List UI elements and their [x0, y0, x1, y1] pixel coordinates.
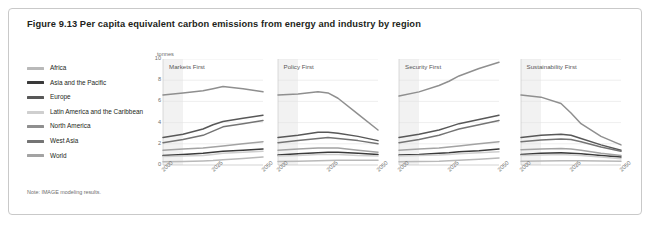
- legend-item-world[interactable]: World: [27, 149, 149, 164]
- legend-color-swatch-icon: [27, 111, 44, 114]
- legend-item-label: Latin America and the Caribbean: [50, 109, 143, 115]
- legend-item-label: North America: [50, 123, 91, 129]
- chart-panels: Markets First0246810200020252050Policy F…: [149, 59, 635, 184]
- legend-item-north-america[interactable]: North America: [27, 119, 149, 134]
- y-axis-tick-label: 0: [149, 162, 161, 168]
- panel-plot: [514, 59, 636, 167]
- legend-color-swatch-icon: [27, 67, 44, 70]
- legend-item-label: Africa: [50, 65, 66, 71]
- panel-plot: [392, 59, 514, 167]
- panel-plot: [271, 59, 393, 167]
- chart-panel-policy-first: Policy First200020252050: [271, 59, 393, 184]
- legend-item-latin-america-and-the-caribbean[interactable]: Latin America and the Caribbean: [27, 105, 149, 120]
- y-axis-tick-label: 8: [149, 77, 161, 83]
- panel-plot: [149, 59, 271, 167]
- y-axis-tick-label: 4: [149, 120, 161, 126]
- chart-panel-markets-first: Markets First0246810200020252050: [149, 59, 271, 184]
- legend-item-asia-and-the-pacific[interactable]: Asia and the Pacific: [27, 76, 149, 91]
- legend-item-west-asia[interactable]: West Asia: [27, 134, 149, 149]
- legend-item-label: Asia and the Pacific: [50, 80, 106, 86]
- page-title: Figure 9.13 Per capita equivalent carbon…: [27, 19, 421, 29]
- legend-item-label: World: [50, 153, 67, 159]
- figure-card: Figure 9.13 Per capita equivalent carbon…: [8, 8, 642, 215]
- chart-legend: AfricaAsia and the PacificEuropeLatin Am…: [27, 61, 149, 163]
- legend-color-swatch-icon: [27, 125, 44, 128]
- series-line-africa: [521, 161, 621, 162]
- y-axis-tick-label: 2: [149, 141, 161, 147]
- legend-item-africa[interactable]: Africa: [27, 61, 149, 76]
- legend-item-label: Europe: [50, 94, 71, 100]
- figure-note: Note: IMAGE modeling results.: [27, 189, 101, 195]
- legend-item-europe[interactable]: Europe: [27, 90, 149, 105]
- legend-item-label: West Asia: [50, 138, 78, 144]
- y-axis-tick-label: 6: [149, 98, 161, 104]
- y-axis-tick-label: 10: [149, 56, 161, 62]
- legend-color-swatch-icon: [27, 96, 44, 99]
- chart-panel-sustainability-first: Sustainability First200020252050: [514, 59, 636, 184]
- legend-color-swatch-icon: [27, 154, 44, 157]
- chart-panel-security-first: Security First200020252050: [392, 59, 514, 184]
- legend-color-swatch-icon: [27, 81, 44, 84]
- legend-color-swatch-icon: [27, 140, 44, 143]
